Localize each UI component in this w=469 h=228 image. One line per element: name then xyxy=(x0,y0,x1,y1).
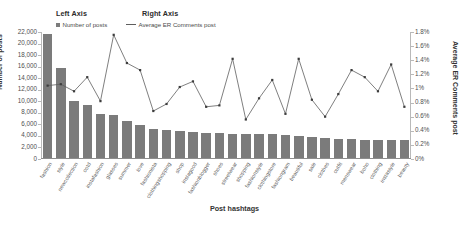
line-marker[interactable] xyxy=(205,106,207,108)
line-marker[interactable] xyxy=(113,34,115,36)
y-axis-left-tick-label: 16,000 xyxy=(18,62,37,69)
x-axis-tick-label: boho xyxy=(358,161,370,175)
line-marker[interactable] xyxy=(337,93,339,95)
line-marker[interactable] xyxy=(60,83,62,85)
line-marker[interactable] xyxy=(86,76,88,78)
y-axis-left-tick-label: 12,000 xyxy=(18,85,37,92)
x-axis-tick-slot: instastyle xyxy=(385,160,398,204)
y-axis-right-tick-label: 1.2% xyxy=(415,70,429,77)
y-axis-right-tick-mark xyxy=(411,145,414,146)
y-axis-right-tick-label: 0.8% xyxy=(415,98,429,105)
y-axis-left-tick-label: 18,000 xyxy=(18,51,37,58)
plot-area: 22,00020,00018,00016,00014,00012,00010,0… xyxy=(41,32,411,159)
line-marker[interactable] xyxy=(47,85,49,87)
y-axis-right-tick-label: 0.6% xyxy=(415,112,429,119)
y-axis-left-tick-label: 4,000 xyxy=(21,131,37,138)
x-axis-tick-label: shop xyxy=(173,161,184,174)
y-axis-right-tick-label: 0% xyxy=(415,155,424,162)
line-path xyxy=(48,35,405,120)
line-marker[interactable] xyxy=(139,69,141,71)
line-marker[interactable] xyxy=(390,63,392,65)
x-axis-tick-labels: fashionstylenewcollectionootdinstafashio… xyxy=(41,160,411,204)
line-marker[interactable] xyxy=(258,97,260,99)
line-marker[interactable] xyxy=(364,76,366,78)
line-marker[interactable] xyxy=(284,113,286,115)
line-marker[interactable] xyxy=(311,99,313,101)
x-axis-tick-slot: sale xyxy=(305,160,318,204)
y-axis-right-tick-mark xyxy=(411,103,414,104)
line-marker[interactable] xyxy=(179,86,181,88)
y-axis-right-title: Average ER Comments post xyxy=(452,41,459,135)
y-axis-left-tick-label: 0 xyxy=(33,155,37,162)
x-axis-tick-slot: newcollection xyxy=(67,160,80,204)
line-marker[interactable] xyxy=(165,103,167,105)
legend-heading-right-axis: Right Axis xyxy=(142,9,178,18)
x-axis-tick-label: shoes xyxy=(212,161,225,177)
x-axis-tick-label: beauty xyxy=(396,161,410,178)
y-axis-left-tick-label: 20,000 xyxy=(18,39,37,46)
x-axis-tick-slot: beauty xyxy=(398,160,411,204)
y-axis-right-tick-mark xyxy=(411,88,414,89)
x-axis-title: Post hashtags xyxy=(0,204,469,213)
line-marker[interactable] xyxy=(298,58,300,60)
y-axis-right-tick-mark xyxy=(411,131,414,132)
y-axis-left-tick-label: 6,000 xyxy=(21,120,37,127)
chart-root: Left Axis Right Axis Number of posts Ave… xyxy=(0,0,469,228)
y-axis-right-tick-label: 0.4% xyxy=(415,126,429,133)
x-axis-tick-slot: instafashion xyxy=(94,160,107,204)
line-marker[interactable] xyxy=(99,100,101,102)
line-marker[interactable] xyxy=(218,104,220,106)
line-marker[interactable] xyxy=(271,79,273,81)
y-axis-left-tick-label: 10,000 xyxy=(18,97,37,104)
y-axis-right-tick-mark xyxy=(411,117,414,118)
x-axis-tick-slot: boho xyxy=(358,160,371,204)
line-marker[interactable] xyxy=(350,69,352,71)
y-axis-right-tick-mark xyxy=(411,159,414,160)
y-axis-right-tick-mark xyxy=(411,74,414,75)
x-axis-tick-slot: clothes xyxy=(319,160,332,204)
y-axis-right-tick-label: 1.4% xyxy=(415,56,429,63)
y-axis-right-tick-mark xyxy=(411,46,414,47)
line-swatch-icon xyxy=(126,24,136,25)
line-series xyxy=(41,32,411,159)
line-marker[interactable] xyxy=(324,116,326,118)
y-axis-left-tick-label: 14,000 xyxy=(18,74,37,81)
y-axis-left-tick-label: 8,000 xyxy=(21,108,37,115)
square-swatch-icon xyxy=(56,23,60,27)
line-marker[interactable] xyxy=(152,110,154,112)
x-axis-tick-slot: menswear xyxy=(345,160,358,204)
y-axis-left-tick-label: 22,000 xyxy=(18,28,37,35)
x-axis-tick-slot: clothingshopping xyxy=(160,160,173,204)
x-axis-tick-label: fashion xyxy=(38,161,52,179)
x-axis-tick-label: love xyxy=(135,161,145,173)
line-marker[interactable] xyxy=(377,90,379,92)
line-marker[interactable] xyxy=(126,62,128,64)
line-marker[interactable] xyxy=(73,90,75,92)
line-marker[interactable] xyxy=(403,106,405,108)
x-axis-tick-label: style xyxy=(55,161,66,174)
x-axis-tick-label: clothes xyxy=(316,161,330,179)
x-axis-tick-slot: beautiful xyxy=(292,160,305,204)
x-axis-tick-slot: glasses xyxy=(107,160,120,204)
y-axis-right-tick-label: 1% xyxy=(415,84,424,91)
legend-item-number-of-posts[interactable]: Number of posts xyxy=(56,21,107,28)
legend-heading-left-axis: Left Axis xyxy=(56,9,87,18)
y-axis-right-tick-label: 1.8% xyxy=(415,28,429,35)
y-axis-left-tick-label: 2,000 xyxy=(21,143,37,150)
line-marker[interactable] xyxy=(232,58,234,60)
line-marker[interactable] xyxy=(192,80,194,82)
legend-item-average-er-comments-post[interactable]: Average ER Comments post xyxy=(126,21,216,28)
x-axis-tick-label: ootd xyxy=(82,161,93,173)
x-axis-tick-slot: fashiongram xyxy=(279,160,292,204)
x-axis-tick-slot: summer xyxy=(120,160,133,204)
x-axis-tick-label: outfit xyxy=(332,161,343,174)
x-axis-tick-label: sale xyxy=(307,161,317,173)
y-axis-right-tick-mark xyxy=(411,32,414,33)
y-axis-right-tick-label: 0.2% xyxy=(415,140,429,147)
legend-label-number-of-posts: Number of posts xyxy=(63,21,108,28)
line-marker[interactable] xyxy=(245,118,247,120)
x-axis-tick-slot: fashionblogger xyxy=(200,160,213,204)
y-axis-right-tick-label: 1.6% xyxy=(415,42,429,49)
y-axis-left-title: Number of posts xyxy=(0,34,3,90)
y-axis-right-tick-mark xyxy=(411,60,414,61)
